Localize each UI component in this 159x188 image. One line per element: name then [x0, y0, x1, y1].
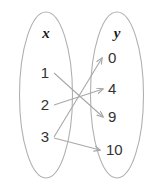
- arrow-3-to-10: [54, 138, 100, 150]
- range-element-10: 10: [106, 142, 123, 158]
- range-element-4: 4: [108, 81, 116, 97]
- mapping-diagram: x y 1 2 3 0 4 9 10: [0, 0, 159, 188]
- domain-header-label: x: [36, 24, 56, 42]
- range-element-0: 0: [108, 50, 116, 66]
- arrow-1-to-9: [54, 73, 103, 117]
- range-element-9: 9: [108, 109, 116, 125]
- range-header-label: y: [107, 24, 127, 42]
- domain-element-2: 2: [27, 97, 49, 113]
- domain-element-1: 1: [27, 65, 49, 81]
- mapping-diagram-canvas: [0, 0, 159, 188]
- arrow-3-to-0: [54, 58, 102, 137]
- domain-element-3: 3: [27, 129, 49, 145]
